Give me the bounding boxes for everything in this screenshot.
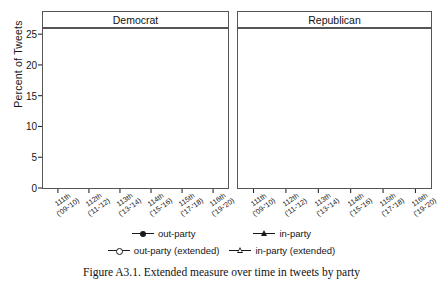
y-tick-label: 5 (17, 152, 37, 163)
y-tick-label: 15 (17, 90, 37, 101)
legend-label: out-party (158, 228, 196, 239)
legend-label: out-party (extended) (134, 245, 220, 256)
figure-root: Percent of Tweets 0510152025Democrat111t… (0, 0, 443, 292)
legend-item-in-party[interactable]: in-party (253, 226, 311, 241)
panel-title-republican: Republican (237, 11, 432, 28)
legend-marker-open-circle (116, 248, 123, 255)
legend-item-out-party[interactable]: out-party (132, 226, 196, 241)
legend-item-in-party-extended-[interactable]: in-party (extended) (229, 243, 335, 258)
legend-row-extended: out-party (extended)in-party (extended) (0, 243, 443, 258)
panel-frame-republican (237, 28, 432, 189)
legend-item-out-party-extended-[interactable]: out-party (extended) (108, 243, 220, 258)
legend-marker-filled-triangle (261, 230, 267, 236)
legend-key-filled-circle-icon (132, 228, 154, 240)
legend-marker-filled-circle (140, 231, 146, 237)
plot-area: Percent of Tweets 0510152025Democrat111t… (0, 0, 443, 222)
legend-label: in-party (extended) (255, 245, 335, 256)
figure-caption: Figure A3.1. Extended measure over time … (0, 266, 443, 278)
legend-label: in-party (279, 228, 311, 239)
panel-title-democrat: Democrat (42, 11, 229, 28)
legend-key-open-circle-icon (108, 245, 130, 257)
legend-row-primary: out-partyin-party (0, 226, 443, 241)
y-tick-label: 0 (17, 183, 37, 194)
chart-legend: out-partyin-party out-party (extended)in… (0, 226, 443, 260)
y-tick-label: 25 (17, 29, 37, 40)
legend-key-filled-triangle-icon (253, 228, 275, 240)
y-tick-label: 10 (17, 121, 37, 132)
y-tick-label: 20 (17, 59, 37, 70)
panel-frame-democrat (42, 28, 229, 189)
legend-key-open-triangle-icon (229, 245, 251, 257)
